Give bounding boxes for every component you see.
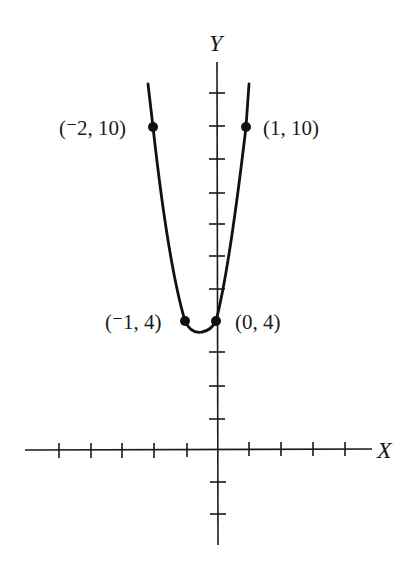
label-neg1-4: (⁻1, 4): [105, 310, 162, 334]
point-neg1-4: [180, 316, 190, 326]
y-axis-label: Y: [209, 30, 225, 56]
label-neg2-10: (⁻2, 10): [59, 116, 126, 140]
x-axis: [25, 449, 372, 450]
parabola-chart: (⁻2, 10) (1, 10) (⁻1, 4) (0, 4) X Y: [0, 0, 416, 578]
parabola-curve: [148, 84, 249, 332]
x-axis-label: X: [376, 437, 393, 463]
label-0-4: (0, 4): [235, 310, 281, 334]
point-0-4: [211, 316, 221, 326]
y-axis: [217, 62, 218, 545]
point-1-10: [241, 122, 251, 132]
point-neg2-10: [148, 122, 158, 132]
label-1-10: (1, 10): [263, 116, 319, 140]
